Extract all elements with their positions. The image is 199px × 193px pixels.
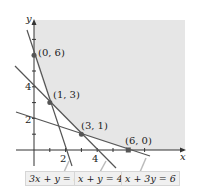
y-axis-label: y <box>26 13 32 24</box>
x-tick-label-2: 2 <box>60 153 66 164</box>
vertex-label-6-0: (6, 0) <box>125 135 152 146</box>
legend-x-plus-3y-eq-6: x + 3y = 6 <box>121 171 180 186</box>
vertex-label-3-1: (3, 1) <box>81 120 108 131</box>
feasible-region <box>34 20 185 150</box>
x-tick-label-4: 4 <box>92 153 98 164</box>
leader-lines <box>64 158 146 172</box>
legend-x-plus-y-eq-4: x + y = 4 <box>74 171 127 186</box>
vertex-label-0-6: (0, 6) <box>38 47 65 58</box>
chart-canvas <box>0 0 199 193</box>
x-axis-label: x <box>180 151 186 162</box>
y-tick-label-2: 2 <box>25 114 31 125</box>
y-tick-label-4: 4 <box>25 81 31 92</box>
vertex-label-1-3: (1, 3) <box>53 89 80 100</box>
